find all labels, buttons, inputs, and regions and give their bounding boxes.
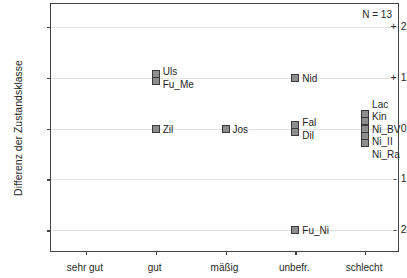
x-tick-label-schlecht: schlecht (346, 262, 383, 273)
point-label: Lac (372, 98, 388, 109)
gridline (51, 78, 398, 79)
point-label: Dil (302, 129, 314, 140)
data-marker (291, 74, 299, 82)
point-label: Fu_Me (163, 78, 194, 89)
data-marker (361, 139, 369, 147)
y-tick-label: + 1 (361, 71, 407, 83)
point-label: Fu_Ni (302, 225, 329, 236)
y-tick-mark (47, 179, 51, 180)
y-tick-mark (47, 27, 51, 28)
plot-area: UlsFu_MeZilJosNidFalDilFu_NiLacKinNi_BVN… (50, 3, 399, 252)
data-marker (291, 226, 299, 234)
x-tick-label-unbefr: unbefr. (279, 262, 310, 273)
x-tick-label-sehrgut: sehr gut (67, 262, 103, 273)
y-tick-label: + 2 (361, 20, 407, 32)
gridline (51, 27, 398, 28)
y-tick-label: - 2 (361, 223, 407, 235)
y-tick-mark (47, 78, 51, 79)
gridline (51, 179, 398, 180)
point-label: Nid (302, 72, 317, 83)
x-tick-label-mig: mäßig (211, 262, 239, 273)
y-axis-title: Differenz der Zustandsklasse (12, 60, 24, 196)
x-tick-mark (295, 251, 296, 255)
point-label: Ni_Ra (372, 148, 400, 159)
x-tick-label-gut: gut (148, 262, 162, 273)
point-label: Fal (302, 117, 316, 128)
data-marker (291, 128, 299, 136)
point-label: Kin (372, 111, 386, 122)
sample-size-annotation: N = 13 (362, 9, 392, 20)
y-tick-label: - 1 (361, 172, 407, 184)
point-label: Zil (163, 123, 174, 134)
point-label: Jos (233, 123, 249, 134)
y-tick-mark (47, 129, 51, 130)
x-tick-mark (156, 251, 157, 255)
gridline (51, 230, 398, 231)
y-tick-label: 0 (361, 122, 407, 134)
y-tick-mark (47, 230, 51, 231)
x-tick-mark (226, 251, 227, 255)
data-marker (152, 125, 160, 133)
point-label: Ni_II (372, 136, 393, 147)
chart-figure: Differenz der Zustandsklasse UlsFu_MeZil… (0, 0, 407, 278)
point-label: Uls (163, 66, 177, 77)
data-marker (222, 125, 230, 133)
data-marker (152, 77, 160, 85)
x-tick-mark (86, 251, 87, 255)
x-tick-mark (365, 251, 366, 255)
